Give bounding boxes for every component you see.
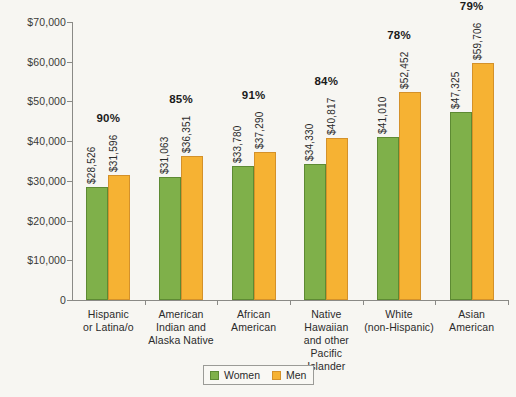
plot-area: $28,526$31,59690%$31,063$36,35185%$33,78… [72, 22, 508, 300]
y-axis-tick-label: $20,000 [27, 215, 66, 227]
group-percent-label: 90% [97, 112, 121, 124]
bar-value-label: $28,526 [86, 146, 97, 184]
bar-value-label: $31,596 [108, 134, 119, 172]
y-axis-tick-label: $70,000 [27, 16, 66, 28]
bar-value-label: $33,780 [232, 125, 243, 163]
group-percent-label: 91% [242, 89, 266, 101]
x-axis-category-label: Asian American [435, 308, 508, 334]
bar-group: $31,063$36,35185% [159, 22, 203, 300]
x-axis-category-label: American Indian and Alaska Native [145, 308, 218, 347]
x-axis-tick [145, 300, 146, 305]
x-axis-tick [435, 300, 436, 305]
bar-women: $28,526 [86, 187, 108, 300]
bar-women: $47,325 [450, 112, 472, 300]
x-axis-category-label: White (non-Hispanic) [363, 308, 436, 334]
x-axis-tick [363, 300, 364, 305]
bar-men: $37,290 [254, 152, 276, 300]
x-axis-tick [217, 300, 218, 305]
bar-value-label: $36,351 [181, 115, 192, 153]
y-axis-tick-label: $50,000 [27, 95, 66, 107]
legend-item: Women [210, 369, 260, 381]
bar-men: $40,817 [326, 138, 348, 300]
bar-group: $41,010$52,45278% [377, 22, 421, 300]
legend-label: Women [224, 369, 260, 381]
bar-value-label: $59,706 [472, 22, 483, 60]
y-axis-tick-label: $10,000 [27, 254, 66, 266]
bar-chart: 0$10,000$20,000$30,000$40,000$50,000$60,… [0, 0, 516, 397]
bar-women: $31,063 [159, 177, 181, 300]
bar-group: $34,330$40,81784% [304, 22, 348, 300]
bar-men: $36,351 [181, 156, 203, 300]
bar-women: $41,010 [377, 137, 399, 300]
bar-value-label: $37,290 [254, 111, 265, 149]
x-axis-category-label: Hispanic or Latina/o [72, 308, 145, 334]
bar-group: $33,780$37,29091% [232, 22, 276, 300]
bar-value-label: $52,452 [399, 51, 410, 89]
bar-value-label: $34,330 [304, 123, 315, 161]
bar-women: $33,780 [232, 166, 254, 300]
bar-women: $34,330 [304, 164, 326, 300]
bar-value-label: $31,063 [159, 136, 170, 174]
x-axis-tick [290, 300, 291, 305]
y-axis-tick-label: $30,000 [27, 175, 66, 187]
bar-value-label: $41,010 [377, 97, 388, 135]
y-axis-tick-label: $40,000 [27, 135, 66, 147]
legend-swatch-icon [272, 371, 281, 380]
chart-legend: WomenMen [203, 365, 314, 385]
bar-group: $28,526$31,59690% [86, 22, 130, 300]
bar-value-label: $47,325 [450, 72, 461, 110]
bar-men: $59,706 [472, 63, 494, 300]
group-percent-label: 79% [460, 0, 484, 12]
legend-item: Men [272, 369, 306, 381]
group-percent-label: 78% [387, 29, 411, 41]
x-axis-category-label: African American [217, 308, 290, 334]
y-axis-tick [67, 300, 72, 301]
x-axis-tick [508, 300, 509, 305]
bar-men: $31,596 [108, 175, 130, 300]
group-percent-label: 85% [169, 93, 193, 105]
legend-swatch-icon [210, 371, 219, 380]
bar-group: $47,325$59,70679% [450, 22, 494, 300]
legend-label: Men [286, 369, 306, 381]
bar-men: $52,452 [399, 92, 421, 300]
bar-value-label: $40,817 [326, 97, 337, 135]
x-axis-category-label: Native Hawaiian and other Pacific Island… [290, 308, 363, 373]
group-percent-label: 84% [315, 75, 339, 87]
y-axis-tick-label: 0 [60, 294, 66, 306]
y-axis-tick-label: $60,000 [27, 56, 66, 68]
